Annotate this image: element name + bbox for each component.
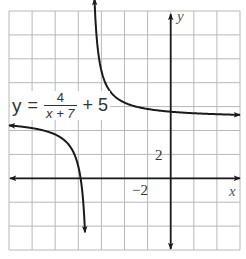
equation-equals: = <box>28 95 39 116</box>
equation-fraction: 4 x + 7 <box>44 91 77 120</box>
x-tick-label: −2 <box>132 183 148 198</box>
x-axis-label: x <box>229 184 236 199</box>
y-tick-label: 2 <box>155 148 163 163</box>
equation-label: y = 4 x + 7 + 5 <box>10 91 110 120</box>
equation-constant: + 5 <box>83 95 109 116</box>
graph-plot <box>0 0 246 259</box>
y-axis-label: y <box>177 9 184 24</box>
equation-lhs: y <box>12 95 22 117</box>
fraction-numerator: 4 <box>55 91 66 105</box>
fraction-denominator: x + 7 <box>44 105 77 121</box>
